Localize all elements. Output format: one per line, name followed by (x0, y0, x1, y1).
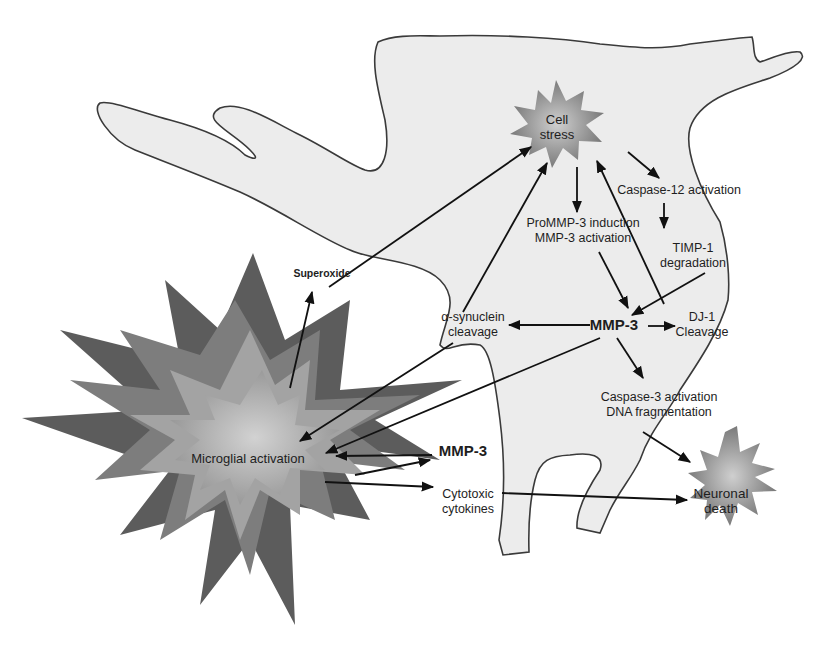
node-caspase-3-activation: Caspase-3 activation DNA fragmentation (601, 390, 718, 420)
node-alpha-synuclein-cleavage: α-synuclein cleavage (441, 310, 505, 340)
node-mmp3-center: MMP-3 (590, 317, 638, 332)
node-dj1-cleavage: DJ-1 Cleavage (676, 310, 729, 340)
node-microglial-activation: Microglial activation (191, 451, 304, 466)
node-cytotoxic-cytokines: Cytotoxic cytokines (442, 487, 494, 517)
node-timp1-degradation: TIMP-1 degradation (660, 241, 726, 271)
microglia-starburst (22, 253, 462, 625)
node-caspase-12: Caspase-12 activation (617, 183, 741, 198)
node-cell-stress: Cell stress (540, 112, 575, 142)
node-neuronal-death: Neuronal death (694, 486, 749, 516)
node-superoxide: Superoxide (293, 266, 350, 281)
node-prommp3-induction: ProMMP-3 induction MMP-3 activation (526, 216, 639, 246)
node-mmp3-microglia: MMP-3 (439, 443, 487, 458)
